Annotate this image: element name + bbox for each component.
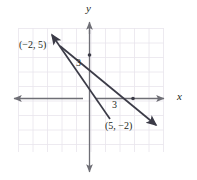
y-intercept-point [88, 53, 92, 57]
y-axis-tick-label-3: 3 [76, 58, 81, 68]
plotted-line [52, 35, 156, 125]
coordinate-plane-figure: y x 3 3 (−2, 5) (5, −2) [0, 0, 197, 180]
x-axis-tick-label-3: 3 [112, 100, 117, 110]
x-intercept-point [131, 97, 135, 101]
graph-canvas [0, 0, 197, 180]
x-axis-label: x [177, 91, 182, 102]
point-label-upper-left: (−2, 5) [19, 40, 46, 50]
point-label-lower-right: (5, −2) [105, 121, 132, 131]
intercept-markers [88, 53, 135, 100]
y-axis-label: y [86, 3, 91, 14]
